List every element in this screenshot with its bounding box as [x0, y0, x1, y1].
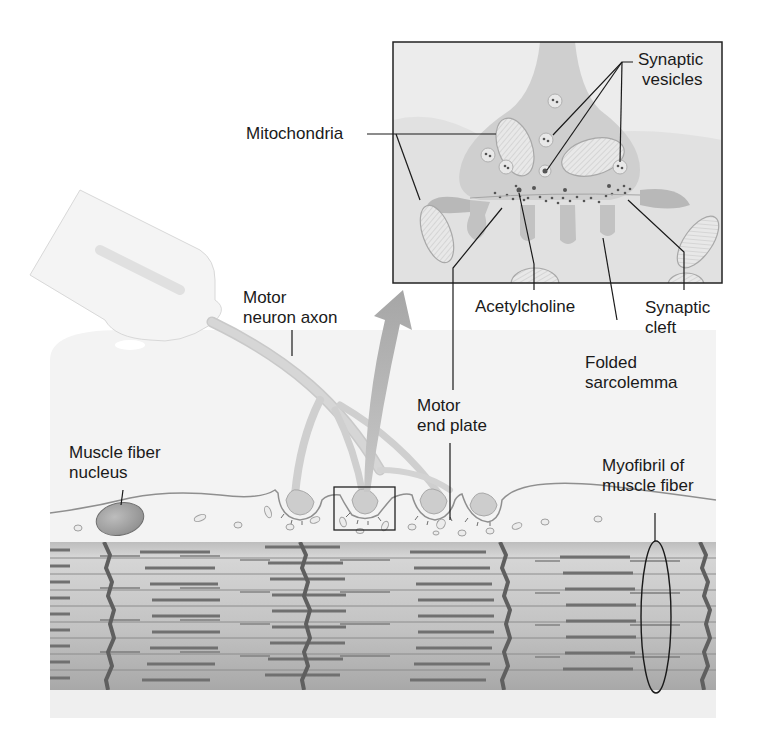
- label-motor-neuron-axon: Motor neuron axon: [243, 288, 338, 328]
- label-folded-sarcolemma: Folded sarcolemma: [585, 353, 678, 393]
- label-line: end plate: [417, 416, 487, 436]
- neuron-cell-body: [30, 190, 221, 350]
- label-line: Mitochondria: [246, 124, 343, 144]
- label-line: vesicles: [642, 70, 703, 90]
- label-line: Motor: [417, 396, 487, 416]
- label-synaptic-cleft: Synaptic cleft: [645, 298, 710, 338]
- label-line: Muscle fiber: [69, 443, 161, 463]
- label-line: Synaptic: [645, 298, 710, 318]
- label-line: muscle fiber: [602, 476, 694, 496]
- neuromuscular-junction-diagram: Synaptic vesicles Mitochondria Motor neu…: [0, 0, 761, 733]
- label-line: Motor: [243, 288, 338, 308]
- label-line: Folded: [585, 353, 678, 373]
- myofibril-band: [50, 542, 716, 690]
- label-line: Synaptic: [638, 50, 703, 70]
- label-mitochondria: Mitochondria: [246, 124, 343, 144]
- label-line: sarcolemma: [585, 373, 678, 393]
- label-acetylcholine: Acetylcholine: [475, 297, 575, 317]
- label-line: cleft: [645, 318, 710, 338]
- label-line: nucleus: [69, 463, 161, 483]
- label-synaptic-vesicles: Synaptic vesicles: [638, 50, 703, 90]
- label-motor-end-plate: Motor end plate: [417, 396, 487, 436]
- label-muscle-fiber-nucleus: Muscle fiber nucleus: [69, 443, 161, 483]
- label-line: Myofibril of: [602, 456, 694, 476]
- label-myofibril: Myofibril of muscle fiber: [602, 456, 694, 496]
- label-line: neuron axon: [243, 308, 338, 328]
- label-line: Acetylcholine: [475, 297, 575, 317]
